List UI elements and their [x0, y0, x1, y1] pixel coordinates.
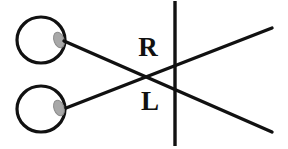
diagram-canvas: R L: [0, 0, 288, 149]
label-upper-r: R: [138, 32, 158, 62]
optics-diagram: R L: [0, 0, 288, 149]
upper-eye-sight-line: [64, 41, 272, 132]
label-lower-l: L: [141, 86, 159, 116]
lower-eye-sight-line: [66, 28, 272, 108]
